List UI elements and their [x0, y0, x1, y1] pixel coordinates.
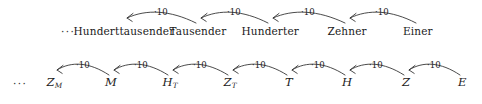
place-value-name: Tausender	[170, 26, 227, 37]
symbol-subscript: T	[173, 81, 178, 90]
arrow-label-times-ten: ·10	[134, 61, 148, 70]
symbol-base: E	[458, 75, 466, 89]
symbol-base: H	[163, 75, 173, 89]
symbol-base: Z	[402, 75, 410, 89]
arrowhead-icon	[409, 65, 415, 73]
arrowhead-icon	[127, 13, 133, 21]
arrowhead-icon	[350, 65, 356, 73]
symbol-base: Z	[47, 75, 55, 89]
arrow-label-times-ten: ·10	[375, 8, 389, 17]
arrow-label-times-ten: ·10	[193, 61, 207, 70]
arrowhead-icon	[350, 13, 356, 21]
place-value-arrow-diagram: HunderttausenderTausenderHunderterZehner…	[0, 0, 482, 104]
arrow-label-times-ten: ·10	[427, 61, 441, 70]
place-value-symbol: HT	[163, 77, 178, 89]
place-value-name: Zehner	[328, 26, 367, 37]
leading-ellipsis: ···	[13, 78, 27, 90]
arrow-label-times-ten: ·10	[252, 61, 266, 70]
place-value-symbol: M	[105, 77, 117, 89]
arrow-label-times-ten: ·10	[76, 61, 90, 70]
symbol-base: M	[105, 75, 117, 89]
arrow-label-times-ten: ·10	[154, 8, 168, 17]
arrow-label-times-ten: ·10	[369, 61, 383, 70]
row-place-value-symbols: ZMMHTZTTHZE·10·10·10·10·10·10·10···	[0, 52, 482, 104]
arrowhead-icon	[173, 65, 179, 73]
symbol-base: H	[342, 75, 352, 89]
symbol-base: Z	[224, 75, 232, 89]
arrowhead-icon	[233, 65, 239, 73]
place-value-name: Einer	[403, 26, 433, 37]
arrow-label-times-ten: ·10	[311, 61, 325, 70]
place-value-name: Hunderttausender	[74, 26, 175, 37]
place-value-symbol: E	[458, 77, 466, 89]
symbol-subscript: T	[232, 81, 237, 90]
place-value-symbol: H	[342, 77, 352, 89]
arrow-label-times-ten: ·10	[301, 8, 315, 17]
arrowhead-icon	[57, 65, 63, 73]
arrowhead-icon	[201, 13, 207, 21]
place-value-symbol: Z	[402, 77, 410, 89]
symbol-subscript: M	[55, 81, 62, 90]
place-value-symbol: ZT	[224, 77, 237, 89]
arrowhead-icon	[292, 65, 298, 73]
row-place-value-names: HunderttausenderTausenderHunderterZehner…	[0, 0, 482, 52]
place-value-name: Hunderter	[242, 26, 299, 37]
place-value-symbol: T	[285, 77, 293, 89]
place-value-symbol: ZM	[47, 77, 62, 89]
arrowhead-icon	[114, 65, 120, 73]
arrow-label-times-ten: ·10	[227, 8, 241, 17]
arrowhead-icon	[273, 13, 279, 21]
symbol-base: T	[285, 75, 293, 89]
leading-ellipsis: ···	[61, 26, 75, 38]
